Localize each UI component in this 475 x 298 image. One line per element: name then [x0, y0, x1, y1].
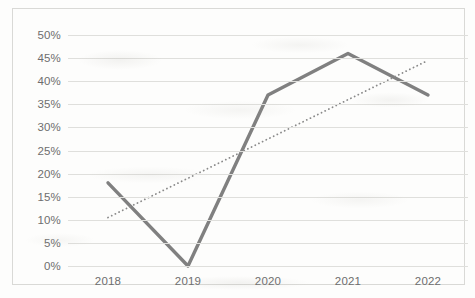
gridline: [68, 266, 468, 267]
gridline: [68, 104, 468, 105]
x-axis-tick-label: 2018: [95, 275, 121, 287]
x-axis-tick-label: 2021: [335, 275, 361, 287]
series-line-data-series: [108, 53, 428, 266]
y-axis-tick-label: 30%: [37, 121, 61, 133]
gridline: [68, 174, 468, 175]
x-axis-tick-label: 2019: [175, 275, 201, 287]
x-axis-tick-label: 2022: [415, 275, 441, 287]
plot-area: 0%5%10%15%20%25%30%35%40%45%50%201820192…: [68, 35, 468, 266]
y-axis-tick-label: 40%: [37, 75, 61, 87]
gridline: [68, 35, 468, 36]
gridline: [68, 243, 468, 244]
gridline: [68, 220, 468, 221]
y-axis-tick-label: 10%: [37, 214, 61, 226]
y-axis-tick-label: 0%: [44, 260, 61, 272]
gridline: [68, 151, 468, 152]
y-axis-tick-label: 35%: [37, 98, 61, 110]
y-axis-tick-label: 45%: [37, 52, 61, 64]
y-axis-tick-label: 25%: [37, 145, 61, 157]
series-line-trendline: [108, 60, 428, 217]
y-axis-tick-label: 5%: [44, 237, 61, 249]
y-axis-tick-label: 20%: [37, 168, 61, 180]
gridline: [68, 58, 468, 59]
y-axis-tick-label: 50%: [37, 29, 61, 41]
y-axis-tick-label: 15%: [37, 191, 61, 203]
x-axis-tick-label: 2020: [255, 275, 281, 287]
gridline: [68, 81, 468, 82]
gridline: [68, 127, 468, 128]
chart-frame: 0%5%10%15%20%25%30%35%40%45%50%201820192…: [12, 8, 465, 285]
gridline: [68, 197, 468, 198]
